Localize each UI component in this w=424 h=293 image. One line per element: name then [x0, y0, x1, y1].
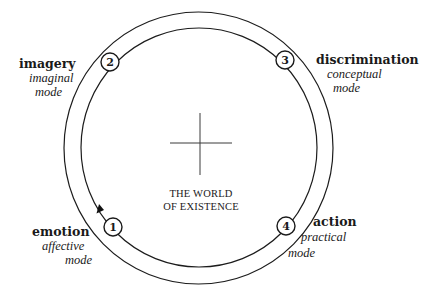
label-imagery-title: imagery: [19, 56, 76, 71]
label-discrimination-subtitle: conceptual: [327, 67, 382, 81]
node-3-discrimination: 3: [276, 51, 294, 69]
label-emotion-subtitle: affective: [42, 239, 85, 253]
label-discrimination: discrimination conceptual mode: [316, 52, 419, 95]
label-emotion-mode: mode: [65, 253, 93, 267]
label-action-subtitle: practical: [300, 230, 347, 244]
center-label-line1: THE WORLD: [169, 188, 232, 199]
label-discrimination-mode: mode: [333, 81, 361, 95]
node-2-number: 2: [106, 56, 114, 69]
label-discrimination-title: discrimination: [316, 52, 419, 67]
label-imagery-subtitle: imaginal: [29, 71, 74, 85]
node-1-emotion: 1: [104, 218, 122, 236]
node-4-action: 4: [277, 217, 295, 235]
node-2-imagery: 2: [101, 53, 119, 71]
label-emotion-title: emotion: [32, 224, 89, 239]
label-action-mode: mode: [288, 246, 316, 260]
node-3-number: 3: [281, 54, 289, 67]
node-1-number: 1: [109, 221, 117, 234]
center-label-line2: OF EXISTENCE: [163, 201, 239, 212]
label-action-title: action: [313, 214, 357, 229]
label-imagery: imagery imaginal mode: [19, 56, 76, 99]
label-emotion: emotion affective mode: [32, 224, 93, 267]
outer-ring: [64, 12, 333, 284]
world-of-existence-diagram: THE WORLD OF EXISTENCE 1 2 3 4 imagery i…: [0, 0, 424, 293]
label-imagery-mode: mode: [35, 85, 63, 99]
label-action: action practical mode: [288, 214, 357, 260]
center-cross-icon: [170, 113, 232, 175]
node-4-number: 4: [282, 220, 290, 233]
